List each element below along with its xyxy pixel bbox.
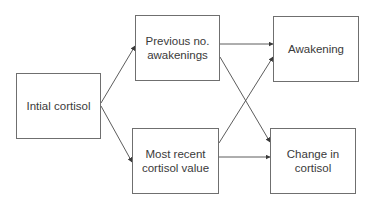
node-label: Intial cortisol [27, 99, 91, 113]
node-label: Most recent cortisol value [142, 147, 209, 175]
node-previous-awakenings: Previous no. awakenings [135, 15, 220, 81]
node-initial-cortisol: Intial cortisol [16, 73, 101, 139]
node-awakening: Awakening [273, 16, 359, 82]
edge-initial-to-recent [101, 106, 132, 162]
node-change-in-cortisol: Change in cortisol [270, 128, 356, 194]
node-most-recent-cortisol: Most recent cortisol value [132, 128, 219, 194]
edge-initial-to-previous [101, 46, 135, 103]
node-label: Change in cortisol [287, 147, 339, 175]
node-label: Previous no. awakenings [146, 34, 210, 62]
node-label: Awakening [288, 42, 344, 56]
